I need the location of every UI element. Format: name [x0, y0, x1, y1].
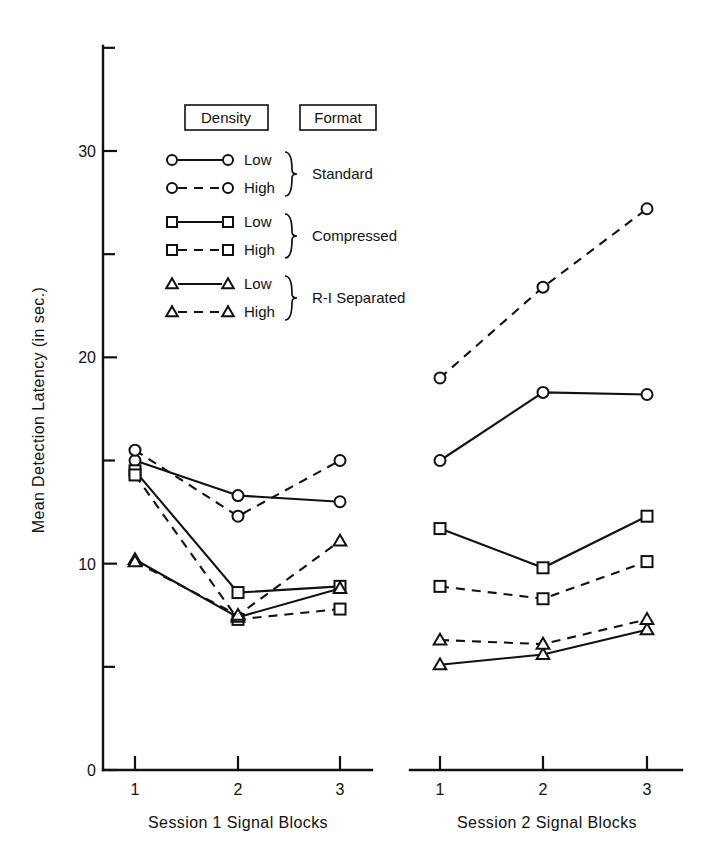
data-point-circle	[538, 282, 549, 293]
legend-marker-square	[223, 217, 233, 227]
x-axis-title-right: Session 2 Signal Blocks	[457, 814, 637, 831]
x-ticklabel: 2	[234, 781, 243, 798]
legend-density-label: Low	[244, 151, 272, 168]
y-ticklabel: 30	[78, 143, 96, 160]
data-point-circle	[335, 496, 346, 507]
legend-row-4: High	[167, 241, 275, 258]
x-tick-group-right	[440, 756, 647, 770]
x-ticklabel-group-left: 123	[131, 781, 345, 798]
y-axis-title: Mean Detection Latency (in sec.)	[30, 287, 47, 534]
data-point-square	[335, 604, 346, 615]
legend-marker-circle	[223, 155, 233, 165]
legend-marker-square	[167, 245, 177, 255]
data-point-square	[538, 562, 549, 573]
series-r-i-separated-high	[129, 535, 347, 620]
x-ticklabel: 3	[336, 781, 345, 798]
legend-format-label: R-I Separated	[312, 289, 405, 306]
legend-row-3: Low	[167, 213, 272, 230]
panel-session-1	[129, 445, 347, 625]
legend-marker-circle	[167, 155, 177, 165]
x-axis-right: 123 Session 2 Signal Blocks	[410, 756, 682, 831]
data-point-circle	[642, 203, 653, 214]
legend-row-2: High	[167, 179, 275, 196]
data-point-circle	[335, 455, 346, 466]
legend-density-label: Low	[244, 213, 272, 230]
data-point-triangle	[641, 613, 654, 624]
x-ticklabel: 3	[643, 781, 652, 798]
y-ticklabel: 10	[78, 556, 96, 573]
data-point-square	[130, 469, 141, 480]
series-standard-low	[130, 455, 346, 507]
x-tick-group-left	[135, 756, 340, 770]
series-standard-low	[435, 387, 653, 466]
legend-brace	[285, 214, 297, 258]
legend-marker-circle	[223, 183, 233, 193]
data-point-triangle	[334, 535, 347, 546]
y-tick-group	[103, 48, 117, 770]
data-point-square	[538, 593, 549, 604]
y-ticklabel: 0	[87, 762, 96, 779]
x-ticklabel-group-right: 123	[436, 781, 652, 798]
y-ticklabel: 20	[78, 349, 96, 366]
data-point-circle	[538, 387, 549, 398]
data-point-circle	[233, 490, 244, 501]
data-point-circle	[130, 445, 141, 456]
legend-row-5: Low	[166, 275, 271, 292]
series-standard-high	[130, 445, 346, 522]
legend-brace	[285, 276, 297, 320]
legend-row-1: Low	[167, 151, 272, 168]
data-point-square	[233, 587, 244, 598]
data-point-circle	[435, 372, 446, 383]
data-point-square	[642, 556, 653, 567]
legend-rows: LowHighLowHighLowHigh	[166, 151, 275, 320]
x-ticklabel: 2	[539, 781, 548, 798]
data-point-square	[642, 511, 653, 522]
data-point-triangle	[434, 634, 447, 645]
data-point-circle	[435, 455, 446, 466]
legend-density-header: Density	[185, 105, 268, 130]
series-standard-high	[435, 203, 653, 383]
legend-marker-circle	[167, 183, 177, 193]
series-line	[440, 516, 647, 568]
legend-brace	[285, 152, 297, 196]
legend-format-label: Compressed	[312, 227, 397, 244]
data-point-circle	[233, 511, 244, 522]
legend-marker-triangle	[166, 306, 178, 316]
series-compressed-low	[435, 511, 653, 574]
line-chart: 0102030 Mean Detection Latency (in sec.)…	[0, 0, 703, 859]
series-line	[135, 471, 340, 593]
legend-format-header: Format	[300, 105, 376, 130]
x-axis-left: 123 Session 1 Signal Blocks	[103, 756, 372, 831]
legend-density-label: High	[244, 303, 275, 320]
x-ticklabel: 1	[436, 781, 445, 798]
y-axis: 0102030 Mean Detection Latency (in sec.)	[30, 46, 117, 779]
legend-density-label: Low	[244, 275, 272, 292]
legend-density-label: High	[244, 179, 275, 196]
series-r-i-separated-high	[434, 613, 654, 649]
data-point-square	[435, 581, 446, 592]
legend-density-label: High	[244, 241, 275, 258]
legend-format-label: Standard	[312, 165, 373, 182]
legend-marker-triangle	[222, 306, 234, 316]
legend-marker-square	[167, 217, 177, 227]
legend: Density Format LowHighLowHighLowHigh Sta…	[166, 105, 405, 320]
legend-format-labels: StandardCompressedR-I Separated	[312, 165, 405, 306]
data-point-circle	[642, 389, 653, 400]
x-ticklabel: 1	[131, 781, 140, 798]
legend-format-header-label: Format	[314, 109, 362, 126]
figure-container: 0102030 Mean Detection Latency (in sec.)…	[0, 0, 703, 859]
series-compressed-low	[130, 465, 346, 598]
series-line	[440, 392, 647, 460]
panel-session-2	[434, 203, 654, 669]
legend-density-header-label: Density	[201, 109, 252, 126]
series-line	[135, 541, 340, 615]
data-point-triangle	[641, 623, 654, 634]
x-axis-title-left: Session 1 Signal Blocks	[148, 814, 328, 831]
legend-marker-triangle	[166, 278, 178, 288]
legend-marker-square	[223, 245, 233, 255]
legend-row-6: High	[166, 303, 275, 320]
legend-marker-triangle	[222, 278, 234, 288]
data-point-square	[435, 523, 446, 534]
legend-braces	[285, 152, 297, 320]
y-ticklabel-group: 0102030	[78, 143, 96, 779]
